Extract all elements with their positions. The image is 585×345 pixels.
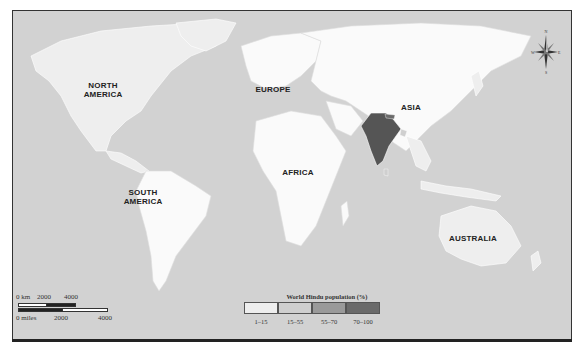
sri-lanka [384,169,388,176]
legend-label: 15–55 [278,318,312,325]
nepal-region [385,114,395,119]
legend-swatch-70-100 [346,302,380,314]
svg-text:S: S [545,70,547,75]
label-australia: AUSTRALIA [443,234,503,243]
label-line: ASIA [391,103,431,112]
label-asia: ASIA [391,103,431,112]
legend-swatch-15-55 [278,302,312,314]
svg-text:E: E [558,50,561,55]
label-line: AMERICA [113,197,173,206]
indonesia-islands [421,181,501,201]
legend-label: 55–70 [312,318,346,325]
label-africa: AFRICA [268,168,328,177]
scale-miles-label: 0 miles [16,314,36,322]
map-frame: NORTH AMERICA SOUTH AMERICA EUROPE AFRIC… [12,10,572,340]
legend-title: World Hindu population (%) [262,293,392,300]
label-line: AFRICA [268,168,328,177]
label-line: EUROPE [243,85,303,94]
svg-text:N: N [545,29,548,34]
label-line: SOUTH [113,188,173,197]
label-line: AUSTRALIA [443,234,503,243]
scale-mi-bar-dark [18,308,64,312]
legend-swatch-1-15 [244,302,278,314]
scale-km-label: 0 km [16,293,30,301]
scale-km-tick: 2000 [37,293,51,301]
legend-label: 1–15 [244,318,278,325]
legend-labels: 1–15 15–55 55–70 70–100 [244,318,380,325]
label-south-america: SOUTH AMERICA [113,188,173,206]
scale-km-tick: 4000 [64,293,78,301]
label-line: AMERICA [73,90,133,99]
europe-landmass [241,33,321,89]
southeast-asia [406,136,431,171]
scale-km-bar-light [18,303,48,307]
scale-km-bar-dark [46,303,76,307]
svg-text:W: W [531,50,535,55]
madagascar [341,201,349,226]
label-europe: EUROPE [243,85,303,94]
scale-mi-bar-light [62,308,108,312]
legend-swatches [244,302,380,314]
frame-shadow [12,339,572,342]
new-zealand [531,251,541,271]
label-line: NORTH [73,81,133,90]
legend-label: 70–100 [346,318,380,325]
label-north-america: NORTH AMERICA [73,81,133,99]
scale-mi-tick: 2000 [54,314,68,322]
compass-rose-icon: N S W E [530,28,562,76]
scale-mi-tick: 4000 [98,314,112,322]
central-america [106,151,149,173]
asia-landmass [301,23,531,151]
legend-swatch-55-70 [312,302,346,314]
africa-landmass [253,111,346,246]
